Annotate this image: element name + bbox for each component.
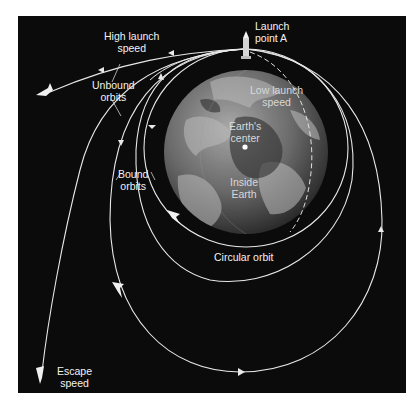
label-earths-center: Earth's center	[229, 120, 261, 144]
earth-center-dot	[242, 144, 247, 149]
label-circular-orbit: Circular orbit	[214, 251, 274, 263]
label-high-launch-speed: High launch speed	[104, 30, 159, 54]
label-low-launch-speed: Low launch speed	[250, 84, 303, 108]
label-escape-speed: Escape speed	[57, 365, 92, 389]
orbit-diagram: High launch speed Launch point A Unbound…	[0, 0, 418, 401]
earth-globe	[164, 70, 328, 234]
label-unbound-orbits: Unbound orbits	[92, 79, 135, 103]
label-launch-point-a: Launch point A	[255, 20, 289, 44]
label-bound-orbits: Bound orbits	[118, 168, 148, 192]
label-inside-earth: Inside Earth	[230, 176, 258, 200]
diagram-canvas	[0, 0, 418, 401]
